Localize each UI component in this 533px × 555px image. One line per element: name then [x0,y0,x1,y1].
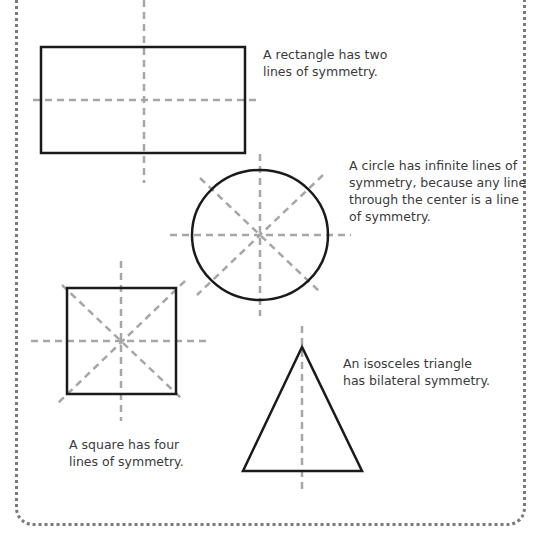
square-symmetry-lines [31,261,211,421]
square-figure [31,261,211,421]
rectangle-symmetry-lines [33,0,256,183]
triangle-figure [243,326,362,489]
triangle-caption: An isosceles triangle has bilateral symm… [343,355,490,389]
circle-figure [170,154,351,316]
circle-caption: A circle has infinite lines of symmetry,… [349,157,526,225]
symmetry-diagram [0,0,533,555]
rectangle-figure [33,0,256,183]
rectangle-caption: A rectangle has two lines of symmetry. [263,46,387,80]
circle-symmetry-lines [170,154,351,316]
square-caption: A square has four lines of symmetry. [69,436,184,470]
